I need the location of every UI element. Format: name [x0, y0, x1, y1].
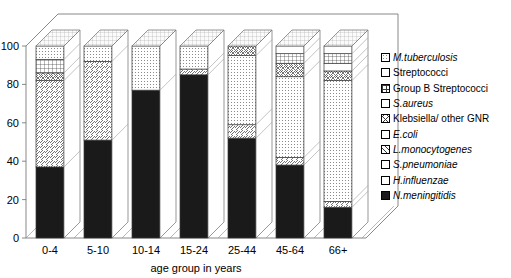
bar-segment — [84, 140, 112, 238]
legend-item-l-monocytogenes: L.monocytogenes — [381, 142, 511, 157]
bar-segment — [132, 90, 160, 238]
x-tick-label: 0-4 — [42, 244, 58, 256]
bar-segment — [84, 61, 112, 140]
bar-segment — [324, 71, 352, 81]
bar-segment — [276, 157, 304, 165]
y-tick-label: 100 — [1, 40, 19, 52]
bar-segment — [228, 46, 256, 56]
legend-swatch-diagonal-hatch — [381, 145, 390, 154]
bar-segment — [324, 202, 352, 208]
bar-group-15-24 — [180, 30, 224, 238]
legend-item-e-coli: E.coli — [381, 126, 511, 141]
x-axis: 0-4 5-10 10-14 15-24 25-44 45-64 66+ age… — [42, 244, 347, 274]
bar-segment — [180, 46, 208, 69]
legend-item-s-aureus: S.aureus — [381, 96, 511, 111]
y-tick-label: 60 — [7, 117, 19, 129]
chart-legend: M.tuberculosis Streptococci Group B Stre… — [381, 50, 511, 203]
legend-item-streptococci: Streptococci — [381, 65, 511, 80]
bar-side-face — [160, 30, 176, 238]
bar-segment — [324, 63, 352, 71]
bar-segment — [276, 77, 304, 158]
bar-segment — [324, 46, 352, 54]
bar-segment — [36, 81, 64, 167]
legend-item-h-influenzae: H.influenzae — [381, 172, 511, 187]
bar-side-face — [112, 30, 128, 238]
bar-segment — [324, 54, 352, 64]
y-axis: 0 20 40 60 80 100 — [1, 40, 26, 244]
legend-label: E.coli — [393, 129, 417, 140]
legend-label: S.aureus — [393, 98, 433, 109]
x-tick-label: 5-10 — [87, 244, 109, 256]
y-tick-label: 80 — [7, 78, 19, 90]
bar-segment — [276, 54, 304, 64]
bar-segment — [324, 81, 352, 202]
legend-swatch-grid — [381, 84, 390, 93]
bar-segment — [36, 46, 64, 59]
bar-segment — [228, 138, 256, 238]
bar-segment — [324, 207, 352, 238]
legend-label: M.tuberculosis — [393, 52, 457, 63]
legend-item-s-pneumoniae: S.pneumoniae — [381, 157, 511, 172]
bar-group-10-14 — [132, 30, 176, 238]
legend-label: H.influenzae — [393, 175, 449, 186]
bar-group-25-44 — [228, 30, 272, 238]
legend-swatch-blank — [381, 160, 390, 169]
legend-label: Klebsiella/ other GNR — [393, 113, 489, 124]
legend-swatch-blank — [381, 176, 390, 185]
bar-group-5-10 — [84, 30, 128, 238]
bar-segment — [36, 73, 64, 81]
x-tick-label: 25-44 — [228, 244, 256, 256]
legend-swatch-fine-dot — [381, 53, 390, 62]
bar-group-66plus — [324, 30, 368, 238]
legend-item-n-meningitidis: N.meningitidis — [381, 188, 511, 203]
legend-label: N.meningitidis — [393, 190, 456, 201]
bar-segment — [276, 46, 304, 54]
legend-swatch-blank — [381, 99, 390, 108]
legend-label: S.pneumoniae — [393, 159, 458, 170]
bar-segment — [36, 59, 64, 72]
legend-item-klebsiella-other-gnr: Klebsiella/ other GNR — [381, 111, 511, 126]
legend-swatch-blank — [381, 68, 390, 77]
legend-label: Group B Streptococci — [393, 83, 488, 94]
legend-swatch-blank — [381, 130, 390, 139]
legend-swatch-solid-black — [381, 191, 390, 200]
legend-label: L.monocytogenes — [393, 144, 472, 155]
bar-segment — [228, 125, 256, 138]
legend-item-m-tuberculosis: M.tuberculosis — [381, 50, 511, 65]
legend-item-group-b-streptococci: Group B Streptococci — [381, 81, 511, 96]
bar-segment — [132, 46, 160, 90]
bar-group-45-64 — [276, 30, 320, 238]
y-tick-label: 40 — [7, 155, 19, 167]
x-tick-label: 66+ — [329, 244, 348, 256]
chart-figure: 0 20 40 60 80 100 — [0, 0, 511, 278]
bar-segment — [276, 165, 304, 238]
y-tick-label: 20 — [7, 194, 19, 206]
bar-side-face — [64, 30, 80, 238]
x-tick-label: 10-14 — [132, 244, 160, 256]
bar-segment — [180, 69, 208, 75]
bar-segment — [36, 167, 64, 238]
bar-segment — [180, 75, 208, 238]
legend-label: Streptococci — [393, 67, 448, 78]
x-tick-label: 15-24 — [180, 244, 208, 256]
x-axis-title: age group in years — [150, 262, 242, 274]
x-tick-label: 45-64 — [276, 244, 304, 256]
bar-segment — [84, 46, 112, 61]
bar-segment — [228, 56, 256, 125]
legend-swatch-cross-diagonal — [381, 114, 390, 123]
bar-group-0-4 — [36, 30, 80, 238]
bar-side-face — [256, 30, 272, 238]
bar-segment — [276, 63, 304, 76]
y-tick-label: 0 — [13, 232, 19, 244]
